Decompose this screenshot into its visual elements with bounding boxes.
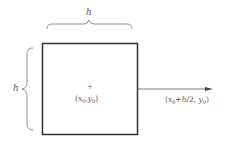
- left-brace: [22, 48, 33, 130]
- center-marker: +: [87, 84, 93, 91]
- arrow-endpoint-label: (x0+h/2, y0): [165, 96, 209, 105]
- top-h-label: h: [86, 8, 92, 17]
- diagram-canvas: [0, 0, 230, 147]
- paren-close: ): [206, 95, 209, 104]
- center-coordinate-label: (x0,y0): [75, 95, 98, 104]
- paren-close: ): [95, 94, 98, 103]
- left-h-label: h: [13, 84, 19, 93]
- half-term: /2,: [187, 95, 199, 104]
- arrow-head-icon: [205, 87, 213, 91]
- top-brace: [47, 20, 132, 29]
